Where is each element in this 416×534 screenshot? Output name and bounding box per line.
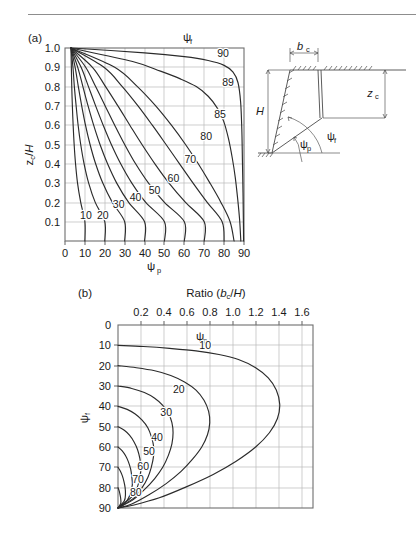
svg-text:p: p [307,144,311,153]
psi-f-label: ψ f [327,130,337,145]
top-horizontal-rule [28,14,416,15]
svg-text:0.8: 0.8 [45,81,60,93]
curve-label-40: 40 [151,431,163,443]
panel-b-ylabel: ψf [78,412,92,423]
figure-container: (a) ψ f zc/H ψ p [0,0,416,534]
slope-face [272,70,290,153]
panel-a-xtick-labels: 0 10 20 30 40 50 60 70 80 90 [62,247,250,259]
svg-text:40: 40 [99,400,111,412]
panel-a-ytick-labels: 1.0 0.9 0.8 0.7 0.6 0.5 0.4 0.3 0.2 0.1 [45,42,60,228]
panel-a: (a) ψ f zc/H ψ p [23,31,250,275]
svg-text:10: 10 [99,339,111,351]
panel-a-curve-labels: 1010202030304040505060607070808085858989… [80,47,234,221]
panel-a-legend-title: ψ f [183,31,193,46]
svg-text:0.4: 0.4 [45,158,60,170]
curve-label-60: 60 [137,460,149,472]
svg-text:c: c [375,92,379,101]
svg-text:0.2: 0.2 [133,306,148,318]
psi-p-leader [300,153,302,162]
svg-text:10: 10 [79,247,91,259]
panel-a-label: (a) [28,32,42,44]
h-dimension [266,70,290,153]
curve-label-20: 20 [97,209,109,221]
svg-text:90: 90 [99,502,111,514]
psi-p-label: ψ p [300,138,311,153]
panel-a-frame [65,48,244,241]
curve-80 [71,48,224,241]
curve-label-50: 50 [149,184,161,196]
svg-text:40: 40 [139,247,151,259]
svg-text:90: 90 [238,247,250,259]
psi-f-arrow [288,117,292,121]
bc-label: b c [297,40,310,54]
svg-text:80: 80 [218,247,230,259]
svg-text:80: 80 [99,482,111,494]
svg-text:ψ: ψ [147,260,155,272]
svg-text:0: 0 [62,247,68,259]
base-hatching [258,153,273,157]
svg-text:1.4: 1.4 [271,306,286,318]
zc-label: z c [366,87,379,101]
tension-crack [318,70,320,118]
slope-diagram: b c H z c [256,40,406,162]
curve-label-30: 30 [113,198,125,210]
svg-text:0.8: 0.8 [202,306,217,318]
panel-b-label: (b) [78,287,92,299]
curve-label-80: 80 [200,130,212,142]
panel-b-xticks [141,321,302,325]
panel-b-xtick-labels: 0.2 0.4 0.6 0.8 1.0 1.2 1.4 1.6 [133,306,309,318]
svg-text:60: 60 [99,441,111,453]
panel-b: (b) Ratio (bc/H) ψf ψ p [78,287,313,514]
bc-dimension [290,48,318,62]
curve-label-10: 10 [199,339,211,351]
panel-b-title: Ratio (bc/H) [186,287,246,301]
panel-b-frame [118,325,313,508]
svg-text:0.5: 0.5 [45,139,60,151]
svg-text:ψf: ψf [78,412,92,423]
svg-text:60: 60 [178,247,190,259]
curve-label-89: 89 [222,76,234,88]
svg-text:0: 0 [105,319,111,331]
figure-svg: (a) ψ f zc/H ψ p [0,0,416,534]
curve-label-10: 10 [80,209,92,221]
svg-text:0.6: 0.6 [45,119,60,131]
curve-label-90: 90 [217,47,229,59]
curve-label-80: 80 [130,486,142,498]
curve-label-70: 70 [184,153,196,165]
svg-text:20: 20 [99,247,111,259]
panel-a-ylabel: zc/H [23,144,37,166]
svg-text:f: f [190,37,193,46]
svg-text:0.7: 0.7 [45,100,60,112]
svg-text:1.0: 1.0 [45,42,60,54]
svg-text:0.1: 0.1 [45,216,60,228]
svg-text:0.9: 0.9 [45,61,60,73]
ground-hatching-top [293,66,372,70]
panel-b-grid [118,325,313,508]
svg-text:50: 50 [99,421,111,433]
curve-label-20: 20 [173,383,185,395]
curve-label-40: 40 [130,191,142,203]
panel-a-xlabel: ψ p [147,260,161,275]
svg-text:1.6: 1.6 [294,306,309,318]
svg-text:f: f [334,136,337,145]
svg-text:1.2: 1.2 [248,306,263,318]
svg-text:0.6: 0.6 [179,306,194,318]
panel-a-grid [65,48,244,241]
failure-plane [272,118,322,153]
svg-text:0.4: 0.4 [156,306,171,318]
panel-a-xticks [65,241,244,245]
curve-label-70: 70 [132,473,144,485]
curve-label-30: 30 [160,406,172,418]
svg-text:20: 20 [99,360,111,372]
svg-text:0.3: 0.3 [45,177,60,189]
svg-text:30: 30 [99,380,111,392]
svg-text:1.0: 1.0 [225,306,240,318]
curve-label-85: 85 [214,108,226,120]
svg-text:p: p [157,266,161,275]
svg-text:zc/H: zc/H [23,144,37,166]
svg-text:b: b [297,40,303,52]
svg-text:z: z [366,87,373,99]
svg-text:30: 30 [119,247,131,259]
curve-label-50: 50 [143,445,155,457]
svg-text:50: 50 [158,247,170,259]
